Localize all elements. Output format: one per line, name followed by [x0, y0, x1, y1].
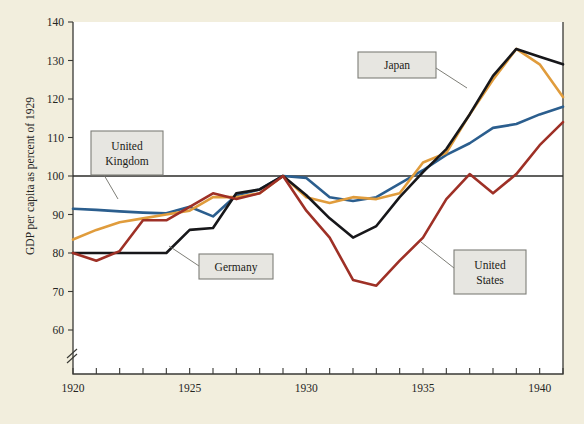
- y-axis-tick-label: 90: [53, 209, 65, 221]
- callout-label-japan: Japan: [384, 59, 410, 72]
- y-axis-label-layer: GDP per capita as percent of 1929: [24, 97, 37, 255]
- gdp-per-capita-line-chart: 6070809010011012013014019201925193019351…: [0, 0, 584, 424]
- y-axis-tick-label: 100: [47, 170, 65, 182]
- y-axis-tick-label: 70: [53, 286, 65, 298]
- x-axis-tick-label: 1930: [295, 382, 318, 394]
- y-axis-tick-label: 140: [47, 16, 65, 28]
- y-axis-tick-label: 120: [47, 93, 65, 105]
- plot-area-background: [73, 22, 563, 374]
- callout-label-united-kingdom: United: [111, 140, 143, 152]
- y-axis-tick-label: 130: [47, 55, 65, 67]
- x-axis-tick-label: 1925: [178, 382, 201, 394]
- y-axis-title: GDP per capita as percent of 1929: [24, 97, 37, 255]
- y-axis-tick-label: 110: [47, 132, 64, 144]
- callout-label-germany: Germany: [215, 261, 258, 274]
- y-axis-tick-label: 80: [53, 247, 65, 259]
- x-axis-tick-label: 1920: [62, 382, 85, 394]
- callout-label-united-kingdom: Kingdom: [105, 155, 149, 168]
- callout-box-united-states: [454, 250, 526, 294]
- x-axis-tick-label: 1935: [412, 382, 435, 394]
- x-axis-tick-label: 1940: [528, 382, 551, 394]
- callout-box-united-kingdom: [91, 131, 163, 175]
- y-axis-tick-label: 60: [53, 324, 65, 336]
- callout-label-united-states: States: [476, 274, 504, 286]
- callout-label-united-states: United: [474, 259, 506, 271]
